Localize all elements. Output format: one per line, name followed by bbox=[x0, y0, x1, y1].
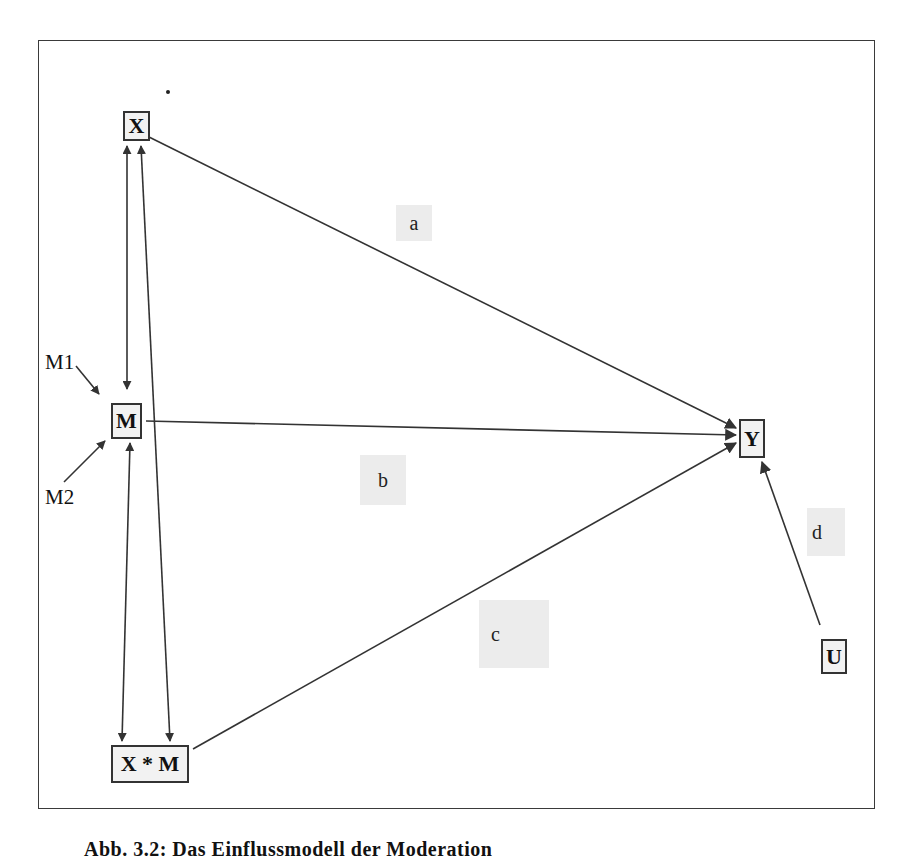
path-label-c-text: c bbox=[491, 623, 500, 646]
node-u-label: U bbox=[826, 646, 842, 668]
external-label-m2: M2 bbox=[45, 487, 74, 508]
edge-x-to-y bbox=[149, 137, 736, 428]
path-label-a-text: a bbox=[410, 212, 419, 235]
node-u: U bbox=[821, 639, 847, 674]
external-label-m1: M1 bbox=[45, 352, 74, 373]
edge-m-to-y bbox=[146, 421, 736, 435]
node-x-times-m: X * M bbox=[111, 745, 189, 783]
node-m-label: M bbox=[116, 410, 137, 432]
path-label-a: a bbox=[396, 205, 432, 241]
node-m: M bbox=[111, 403, 142, 439]
edge-m-xm-bidirectional bbox=[122, 443, 130, 741]
edge-x-xm-bidirectional bbox=[141, 146, 170, 741]
path-label-b: b bbox=[360, 455, 406, 505]
node-x-label: X bbox=[129, 115, 145, 137]
path-label-c: c bbox=[479, 600, 549, 668]
edge-xm-to-y bbox=[193, 443, 736, 749]
node-x: X bbox=[123, 111, 150, 141]
edge-m2-to-m bbox=[64, 441, 105, 482]
node-x-times-m-label: X * M bbox=[121, 753, 180, 775]
path-label-d: d bbox=[807, 508, 845, 556]
node-y-label: Y bbox=[744, 428, 760, 450]
figure-caption: Abb. 3.2: Das Einflussmodell der Moderat… bbox=[84, 838, 492, 860]
node-y: Y bbox=[739, 419, 765, 458]
edge-m1-to-m bbox=[76, 366, 99, 394]
path-label-d-text: d bbox=[812, 521, 822, 544]
path-label-b-text: b bbox=[378, 469, 388, 492]
